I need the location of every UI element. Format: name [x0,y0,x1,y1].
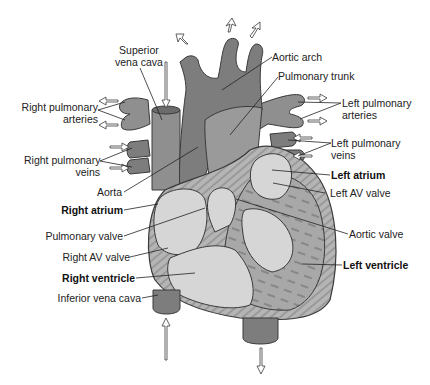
descending-aorta [243,318,278,344]
label-line: vena cava [115,56,163,68]
label-pulmonary-valve: Pulmonary valve [30,230,123,242]
label-left-pulmonary-arteries: Left pulmonary arteries [342,97,411,121]
label-line: Left pulmonary [342,97,411,109]
superior-vena-cava [152,106,180,190]
label-right-pulmonary-arteries: Right pulmonary arteries [18,101,98,125]
label-aorta: Aorta [97,186,122,198]
label-superior-vena-cava: Superior vena cava [115,44,163,68]
right-pulmonary-arteries [119,98,150,130]
label-right-atrium: Right atrium [40,204,123,216]
label-left-atrium: Left atrium [331,169,385,181]
label-left-ventricle: Left ventricle [343,259,408,271]
label-line: Right pulmonary [24,154,100,166]
label-line: Left pulmonary [331,137,400,149]
inferior-vena-cava [153,290,180,314]
label-line: Right pulmonary [18,101,98,113]
left-pulmonary-arteries [255,95,305,130]
label-aortic-valve: Aortic valve [349,228,403,240]
right-pulmonary-veins [127,140,150,174]
label-line: veins [331,149,400,161]
label-right-av-valve: Right AV valve [50,251,130,263]
label-line: arteries [342,109,411,121]
label-line: arteries [18,113,98,125]
label-left-av-valve: Left AV valve [330,187,391,199]
label-left-pulmonary-veins: Left pulmonary veins [331,137,400,161]
label-right-pulmonary-veins: Right pulmonary veins [24,154,100,178]
label-line: Superior [115,44,163,56]
label-line: veins [24,166,100,178]
label-inferior-vena-cava: Inferior vena cava [40,292,141,304]
label-aortic-arch: Aortic arch [272,51,322,63]
label-pulmonary-trunk: Pulmonary trunk [278,70,354,82]
label-right-ventricle: Right ventricle [40,272,135,284]
